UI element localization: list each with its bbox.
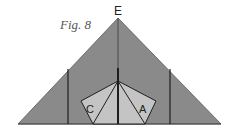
region-label-c: C — [86, 103, 94, 115]
apex-label: E — [114, 4, 122, 18]
figure-caption: Fig. 8 — [59, 17, 92, 32]
region-label-a: A — [139, 103, 147, 115]
diagram-canvas: E Fig. 8 C A — [0, 0, 230, 137]
